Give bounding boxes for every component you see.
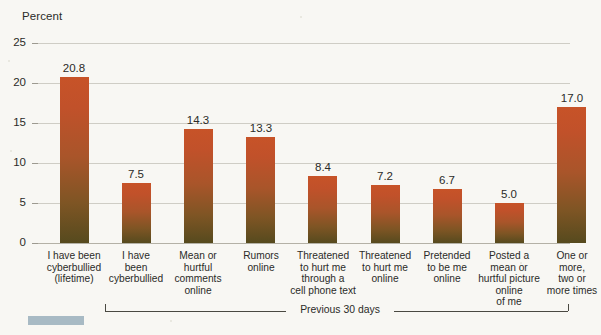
y-tick-label-15: 15 bbox=[4, 116, 26, 128]
category-label-1: I have been cyberbullied (lifetime) bbox=[40, 250, 108, 285]
bar-value-label-9: 17.0 bbox=[547, 92, 597, 104]
y-tick-mark-15 bbox=[32, 123, 38, 124]
y-tick-label-0: 0 bbox=[4, 236, 26, 248]
bar-1 bbox=[60, 77, 89, 243]
category-label-6: Threatened to hurt me online bbox=[351, 250, 419, 285]
bar-4 bbox=[246, 137, 275, 243]
scan-speckle bbox=[520, 262, 522, 264]
scan-speckle bbox=[300, 16, 302, 18]
bar-8 bbox=[495, 203, 524, 243]
bar-value-label-3: 14.3 bbox=[173, 114, 223, 126]
gridline-20 bbox=[38, 83, 570, 84]
y-tick-label-5: 5 bbox=[4, 196, 26, 208]
bar-9 bbox=[557, 107, 586, 243]
y-tick-mark-5 bbox=[32, 203, 38, 204]
bracket-line-segment-2 bbox=[394, 311, 568, 312]
bracket-line-segment-1 bbox=[105, 311, 286, 312]
bracket-label: Previous 30 days bbox=[290, 304, 390, 315]
y-tick-label-25: 25 bbox=[4, 36, 26, 48]
scan-speckle bbox=[10, 150, 12, 152]
y-tick-label-20: 20 bbox=[4, 76, 26, 88]
bar-value-label-6: 7.2 bbox=[360, 170, 410, 182]
y-tick-label-10: 10 bbox=[4, 156, 26, 168]
y-tick-mark-20 bbox=[32, 83, 38, 84]
category-label-2: I have been cyberbullied bbox=[102, 250, 170, 285]
gridline-25 bbox=[38, 43, 570, 44]
category-label-8: Posted a mean or hurtful picture online … bbox=[475, 250, 543, 308]
bar-value-label-8: 5.0 bbox=[484, 188, 534, 200]
bar-value-label-7: 6.7 bbox=[422, 174, 472, 186]
gridline-0 bbox=[38, 243, 570, 244]
bar-value-label-1: 20.8 bbox=[49, 62, 99, 74]
bar-3 bbox=[184, 129, 213, 243]
y-tick-mark-25 bbox=[32, 43, 38, 44]
category-label-3: Mean or hurtful comments online bbox=[164, 250, 232, 296]
bar-value-label-2: 7.5 bbox=[111, 168, 161, 180]
bracket-right-tick bbox=[568, 304, 569, 311]
category-label-5: Threatened to hurt me through a cell pho… bbox=[289, 250, 357, 296]
chart-canvas: Percent 0510152025 20.87.514.313.38.47.2… bbox=[0, 0, 601, 335]
bar-value-label-4: 13.3 bbox=[236, 122, 286, 134]
y-tick-mark-10 bbox=[32, 163, 38, 164]
category-label-4: Rumors online bbox=[227, 250, 295, 273]
bracket-left-tick bbox=[105, 304, 106, 311]
scan-speckle bbox=[170, 320, 172, 322]
scan-speckle bbox=[8, 60, 10, 62]
corner-color-swatch bbox=[28, 316, 84, 325]
bar-2 bbox=[122, 183, 151, 243]
bar-7 bbox=[433, 189, 462, 243]
bar-value-label-5: 8.4 bbox=[298, 161, 348, 173]
bar-5 bbox=[308, 176, 337, 243]
category-label-7: Pretended to be me online bbox=[413, 250, 481, 285]
bar-6 bbox=[371, 185, 400, 243]
gridline-15 bbox=[38, 123, 570, 124]
gridline-5 bbox=[38, 203, 570, 204]
category-label-9: One or more, two or more times bbox=[538, 250, 601, 296]
y-tick-mark-0 bbox=[32, 243, 38, 244]
y-axis-title: Percent bbox=[22, 10, 62, 22]
